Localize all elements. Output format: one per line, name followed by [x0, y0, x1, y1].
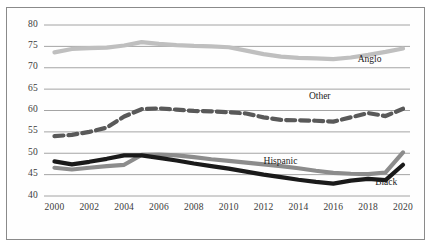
series-label-black: Black	[375, 177, 397, 187]
y-tick-label-60: 60	[14, 104, 38, 114]
series-label-hispanic: Hispanic	[264, 156, 298, 166]
series-line-anglo	[54, 42, 403, 59]
y-tick-label-65: 65	[14, 83, 38, 93]
y-tick-label-80: 80	[14, 19, 38, 29]
series-line-hispanic	[54, 152, 403, 174]
chart-figure: 404550556065707580 200020022004200620082…	[0, 0, 434, 249]
series-label-anglo: Anglo	[358, 54, 382, 64]
y-tick-label-75: 75	[14, 40, 38, 50]
series-label-other: Other	[309, 91, 331, 101]
series-lines-group	[54, 42, 403, 184]
y-tick-label-50: 50	[14, 147, 38, 157]
y-tick-label-55: 55	[14, 125, 38, 135]
y-tick-label-40: 40	[14, 190, 38, 200]
y-tick-label-70: 70	[14, 61, 38, 71]
x-tick-label-2020: 2020	[383, 202, 423, 212]
y-tick-label-45: 45	[14, 168, 38, 178]
